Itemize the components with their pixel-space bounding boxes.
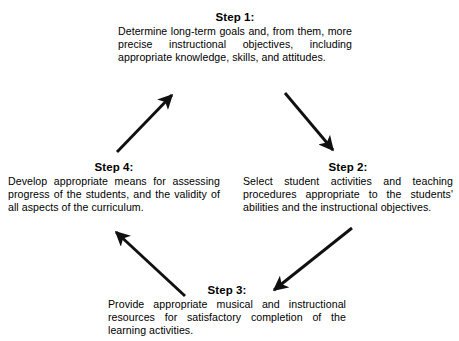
step-4-block: Step 4: Develop appropriate means for as…	[8, 160, 220, 215]
step-2-body: Select student activities and teaching p…	[243, 175, 453, 215]
cycle-diagram: Step 1: Determine long-term goals and, f…	[0, 0, 459, 341]
step-4-title: Step 4:	[8, 160, 220, 174]
step-1-body: Determine long-term goals and, from them…	[118, 25, 352, 65]
arrow-step4-to-step1	[117, 95, 172, 152]
arrow-step1-to-step2	[285, 93, 333, 150]
step-3-title: Step 3:	[108, 283, 346, 297]
arrow-step2-to-step3	[274, 228, 352, 290]
step-3-body: Provide appropriate musical and instruct…	[108, 298, 346, 338]
step-3-block: Step 3: Provide appropriate musical and …	[108, 283, 346, 338]
step-2-title: Step 2:	[243, 160, 453, 174]
step-4-body: Develop appropriate means for assessing …	[8, 175, 220, 215]
step-1-block: Step 1: Determine long-term goals and, f…	[118, 10, 352, 65]
step-2-block: Step 2: Select student activities and te…	[243, 160, 453, 215]
step-1-title: Step 1:	[118, 10, 352, 24]
